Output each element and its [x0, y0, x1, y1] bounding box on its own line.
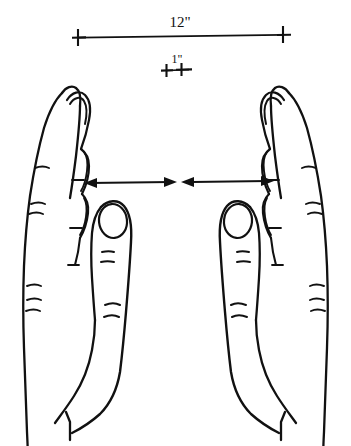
hand-spacing-diagram: 12" 1" — [0, 0, 351, 446]
left-thumb-crease-1 — [102, 251, 114, 252]
right-thumb-crease-1 — [237, 251, 249, 252]
right-thumb-crease-2 — [237, 261, 250, 262]
left-span-arrow-shaft — [89, 182, 171, 183]
gap-dimension-label: 1" — [172, 52, 183, 66]
right-span-arrow-shaft — [192, 181, 268, 182]
diagram-canvas: 12" 1" — [0, 0, 351, 446]
left-thumb-crease-2 — [101, 261, 114, 262]
canvas-background — [0, 0, 351, 446]
overall-dimension-label: 12" — [169, 14, 190, 30]
